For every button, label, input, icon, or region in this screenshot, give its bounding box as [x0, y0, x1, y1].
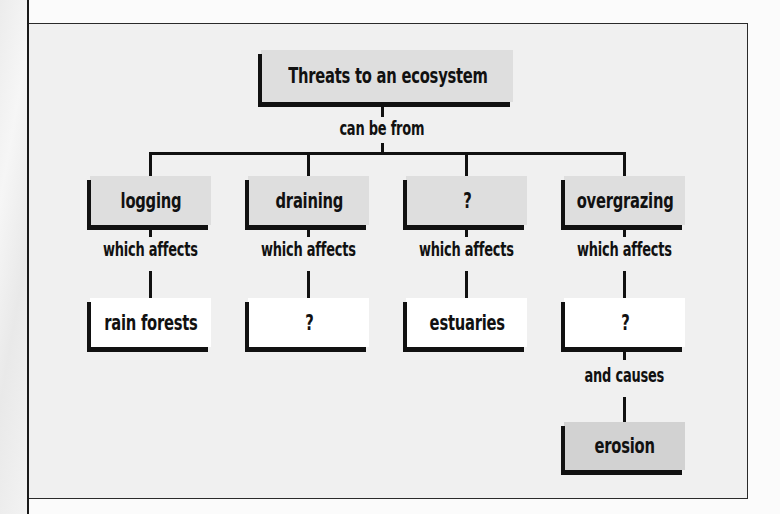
link-label-1: which affects	[80, 238, 220, 260]
root-link-label: can be from	[322, 117, 442, 139]
cause-node-draining: draining	[245, 176, 369, 230]
cause-node-overgrazing: overgrazing	[561, 176, 685, 230]
connector-cause-3	[465, 230, 468, 237]
link-label-2: which affects	[238, 238, 378, 260]
link-label-4: which affects	[554, 238, 694, 260]
root-node: Threats to an ecosystem	[258, 50, 513, 107]
connector-effect-2	[307, 271, 310, 298]
connector-causes-2	[623, 397, 626, 422]
connector-cause-2	[307, 230, 310, 237]
cause-node-unknown: ?	[403, 176, 527, 230]
connector-effect-4	[623, 271, 626, 298]
effect-node-rain-forests: rain forests	[87, 298, 211, 352]
cause-label: draining	[275, 189, 343, 213]
root-node-label: Threats to an ecosystem	[288, 64, 488, 88]
connector-horizontal	[149, 152, 626, 155]
effect-node-unknown-1: ?	[245, 298, 369, 352]
connector-drop-4	[623, 152, 626, 176]
result-label: erosion	[595, 434, 655, 458]
connector-causes-1	[623, 352, 626, 360]
and-causes-label: and causes	[554, 364, 694, 386]
connector-cause-4	[623, 230, 626, 237]
connector-effect-1	[149, 271, 152, 298]
effect-label: rain forests	[104, 311, 197, 335]
connector-cause-1	[149, 230, 152, 237]
effect-node-estuaries: estuaries	[403, 298, 527, 352]
cause-label: ?	[463, 189, 471, 213]
result-node-erosion: erosion	[561, 422, 685, 475]
effect-node-unknown-2: ?	[561, 298, 685, 352]
cause-label: overgrazing	[577, 189, 674, 213]
connector-effect-3	[465, 271, 468, 298]
decorative-margin	[0, 0, 28, 514]
connector-drop-2	[307, 152, 310, 176]
effect-label: ?	[621, 311, 629, 335]
effect-label: estuaries	[429, 311, 504, 335]
link-label-3: which affects	[396, 238, 536, 260]
connector-drop-3	[465, 152, 468, 176]
connector-drop-1	[149, 152, 152, 176]
effect-label: ?	[305, 311, 313, 335]
connector-root-down	[381, 107, 384, 117]
cause-node-logging: logging	[87, 176, 211, 230]
cause-label: logging	[121, 189, 182, 213]
